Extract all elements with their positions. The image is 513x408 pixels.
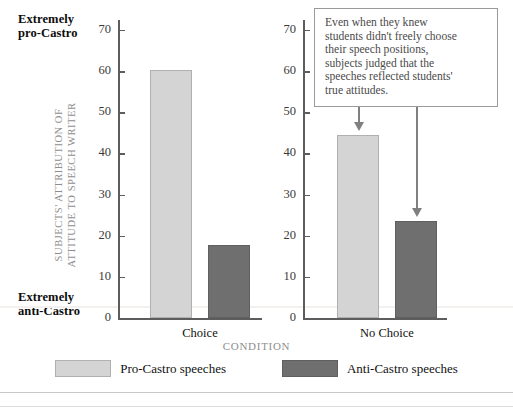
legend-swatch-anti-castro	[282, 360, 338, 377]
annotation-line-3: their speech positions,	[325, 43, 488, 57]
annotation-line-4: subjects judged that the	[325, 57, 488, 71]
y-axis-tick	[119, 318, 125, 319]
legend-item-pro-castro: Pro-Castro speeches	[55, 360, 226, 377]
y-axis-tick	[119, 236, 125, 237]
y-axis-tick	[119, 153, 125, 154]
y-axis-tick	[119, 195, 125, 196]
y-axis-tick-label: 70	[272, 22, 296, 37]
legend-label-pro-castro: Pro-Castro speeches	[120, 361, 226, 377]
y-axis-tick-label: 60	[87, 63, 111, 78]
arrow-shaft	[358, 107, 360, 122]
arrow-shaft	[416, 107, 418, 208]
y-axis-tick-label: 50	[87, 104, 111, 119]
legend-label-anti-castro: Anti-Castro speeches	[347, 361, 458, 377]
y-axis-tick-label: 30	[272, 187, 296, 202]
y-axis-tick	[304, 318, 310, 319]
annotation-callout: Even when they knew students didn't free…	[314, 8, 498, 107]
y-axis-tick	[119, 277, 125, 278]
y-axis-tick	[304, 71, 310, 72]
y-axis-tick-label: 60	[272, 63, 296, 78]
annotation-line-1: Even when they knew	[325, 16, 488, 30]
x-axis-title: CONDITION	[0, 340, 513, 352]
annotation-line-2: students didn't freely choose	[325, 30, 488, 44]
annotation-line-6: true attitudes.	[325, 84, 488, 98]
y-axis-tick	[304, 236, 310, 237]
chart-legend: Pro-Castro speeches Anti-Castro speeches	[0, 360, 513, 377]
y-axis-line	[303, 20, 305, 319]
y-axis-tick-label: 10	[87, 269, 111, 284]
y-axis-tick-label: 40	[272, 145, 296, 160]
y-axis-tick-label: 30	[87, 187, 111, 202]
y-axis-tick-label: 20	[87, 228, 111, 243]
y-axis-tick	[304, 195, 310, 196]
bar-no-choice-pro-castro	[337, 135, 379, 318]
y-axis-tick	[304, 153, 310, 154]
arrow-head	[354, 122, 364, 131]
annotation-line-5: speeches reflected students'	[325, 70, 488, 84]
y-axis-tick-label: 70	[87, 22, 111, 37]
y-axis-tick-label: 0	[87, 310, 111, 325]
y-axis-tick-label: 0	[272, 310, 296, 325]
y-axis-tick-label: 40	[87, 145, 111, 160]
y-axis-tick-label: 10	[272, 269, 296, 284]
y-axis-tick-label: 50	[272, 104, 296, 119]
y-axis-tick	[304, 112, 310, 113]
legend-swatch-pro-castro	[55, 360, 111, 377]
bar-no-choice-anti-castro	[395, 221, 437, 318]
y-axis-tick	[304, 277, 310, 278]
x-axis-line	[303, 318, 447, 320]
chart-figure: Extremely pro-Castro Extremely anti-Cast…	[0, 0, 513, 408]
category-label-no-choice: No Choice	[327, 326, 447, 341]
y-axis-tick-label: 20	[272, 228, 296, 243]
arrow-head	[412, 208, 422, 217]
legend-item-anti-castro: Anti-Castro speeches	[282, 360, 458, 377]
y-axis-tick	[119, 112, 125, 113]
page-rule-top	[0, 392, 513, 393]
page-rule-bottom	[0, 406, 513, 407]
y-axis-tick	[119, 71, 125, 72]
y-axis-tick	[119, 30, 125, 31]
y-axis-line	[118, 20, 120, 319]
y-axis-tick	[304, 30, 310, 31]
